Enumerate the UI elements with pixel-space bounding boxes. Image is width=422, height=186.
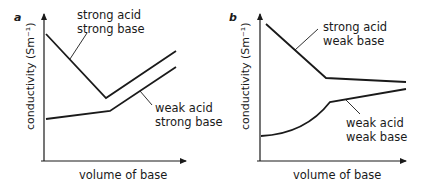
label-a1-line1: strong acid (77, 8, 141, 22)
x-axis-label-b: volume of base (293, 168, 381, 182)
label-b1-line2: weak base (323, 34, 384, 48)
series-strong-acid-strong-base (46, 34, 176, 98)
label-a2-line2: strong base (155, 115, 223, 129)
label-a2-line1: weak acid (155, 101, 213, 115)
y-axis-label-b: conductivity (Sm⁻¹) (239, 22, 252, 130)
callout-line-a1 (70, 33, 87, 59)
panel-b-tag: b (229, 11, 237, 24)
callout-line-a2 (140, 91, 152, 105)
label-b2-line2: weak base (346, 130, 407, 144)
chart-b: b conductivity (Sm⁻¹) volume of base str… (229, 11, 407, 182)
callout-line-b1 (295, 29, 318, 50)
panel-a-tag: a (14, 11, 21, 24)
label-a1-line2: strong base (77, 22, 145, 36)
figure: a conductivity (Sm⁻¹) volume of base str… (0, 0, 422, 186)
callout-line-b2 (346, 100, 360, 114)
y-axis-label-a: conductivity (Sm⁻¹) (24, 22, 37, 130)
label-b2-line1: weak acid (346, 116, 404, 130)
label-b1-line1: strong acid (323, 20, 387, 34)
x-axis-label-a: volume of base (79, 168, 167, 182)
chart-a: a conductivity (Sm⁻¹) volume of base str… (14, 8, 223, 182)
